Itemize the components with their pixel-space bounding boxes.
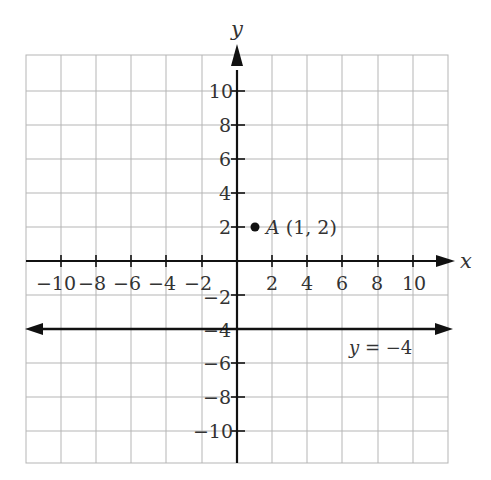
right-arrow-icon — [435, 323, 453, 335]
x-tick-label: −6 — [113, 272, 141, 294]
x-tick-label: −10 — [36, 272, 76, 294]
y-tick-label: 10 — [209, 80, 233, 102]
x-tick-label: 6 — [336, 272, 348, 294]
point-a-letter: A — [264, 216, 280, 238]
x-tick-label: 8 — [371, 272, 383, 294]
x-axis-label: x — [460, 249, 472, 273]
x-tick-label: 4 — [301, 272, 313, 294]
x-tick-labels: −10 −8 −6 −4 −2 2 4 6 8 10 — [36, 272, 426, 294]
equation-rest: = −4 — [359, 337, 412, 358]
y-tick-label: −6 — [203, 352, 231, 374]
y-tick-label: −10 — [193, 420, 233, 442]
y-tick-label: 8 — [219, 114, 231, 136]
y-tick-label: 6 — [219, 148, 231, 170]
y-tick-label: 2 — [219, 216, 231, 238]
y-axis-label: y — [230, 17, 244, 41]
y-tick-label: −2 — [203, 286, 231, 308]
x-tick-label: −8 — [78, 272, 106, 294]
y-tick-label: −8 — [203, 386, 231, 408]
y-tick-label: 4 — [219, 182, 231, 204]
line-equation-label: y = −4 — [348, 337, 412, 358]
point-a-coords: (1, 2) — [286, 216, 337, 238]
point-a — [251, 223, 260, 232]
point-a-label: A(1, 2) — [264, 216, 337, 238]
left-arrow-icon — [25, 323, 43, 335]
coordinate-plane: −10 −8 −6 −4 −2 2 4 6 8 10 10 8 6 4 2 −2… — [0, 0, 491, 480]
x-axis-arrow-icon — [436, 255, 455, 267]
x-tick-label: 2 — [266, 272, 278, 294]
line-y-equals-minus-4 — [25, 323, 453, 335]
x-tick-label: 10 — [402, 272, 426, 294]
x-tick-label: −4 — [148, 272, 176, 294]
